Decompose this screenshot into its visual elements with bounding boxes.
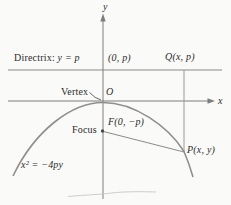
parabola-equation-label: x² = −4py: [21, 159, 63, 171]
origin-label: O: [106, 86, 113, 98]
directrix-label: Directrix: y = p: [14, 52, 80, 64]
focus-point-label: F(0, −p): [108, 116, 144, 128]
x-axis-arrow-icon: [208, 98, 216, 104]
focus-label: Focus: [72, 124, 97, 136]
parabola-directrix-diagram: y x Directrix: y = p (0, p) Q(x, p) Vert…: [0, 0, 231, 205]
directrix-label-equation: y = p: [58, 52, 80, 63]
directrix-y-intercept-label: (0, p): [108, 52, 131, 64]
stray-scan-mark: [68, 192, 156, 197]
directrix-label-prefix: Directrix:: [14, 52, 58, 63]
x-axis-label: x: [218, 95, 223, 107]
y-axis-label: y: [103, 1, 108, 13]
diagram-canvas: [0, 0, 231, 205]
vertex-pointer-line: [90, 93, 102, 101]
y-axis-arrow-icon: [100, 14, 105, 22]
point-q-label: Q(x, p): [165, 51, 195, 63]
focus-dot: [101, 129, 104, 132]
vertex-label: Vertex: [61, 86, 88, 98]
point-p-label: P(x, y): [187, 144, 215, 156]
focus-to-p-line: [104, 132, 185, 153]
